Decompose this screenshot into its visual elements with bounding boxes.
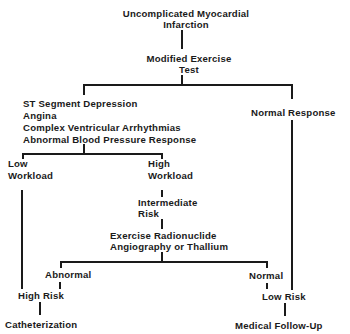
node-abnormal-findings: ST Segment Depression Angina Complex Ven… [23, 98, 196, 146]
node-uncomplicated-mi-line1: Uncomplicated Myocardial [123, 8, 249, 19]
node-high-workload-line2: Workload [148, 170, 193, 182]
node-imaging-abnormal: Abnormal [45, 269, 91, 280]
node-uncomplicated-mi: Uncomplicated Myocardial Infarction [123, 8, 249, 30]
connector-abnormal-to-high-risk [59, 282, 61, 289]
node-high-workload-line1: High [148, 158, 193, 170]
connector-low-workload-to-high-risk [21, 190, 23, 289]
node-modified-exercise-test-line1: Modified Exercise [147, 53, 232, 64]
finding-angina: Angina [23, 110, 196, 122]
node-intermediate-risk-line2: Risk [138, 208, 197, 219]
node-catheterization: Catheterization [5, 319, 77, 330]
node-imaging-normal: Normal [249, 270, 283, 281]
connector-normal-response-to-low-risk [291, 120, 293, 290]
node-uncomplicated-mi-line2: Infarction [123, 19, 249, 30]
finding-st-depression: ST Segment Depression [23, 98, 196, 110]
node-imaging-line2: Angiography or Thallium [110, 241, 228, 252]
connector-to-imaging-abnormal [60, 261, 62, 268]
connector-imaging-branch [60, 261, 268, 263]
node-medical-follow-up: Medical Follow-Up [235, 320, 323, 331]
node-modified-exercise-test-line2: Test [147, 64, 232, 75]
connector-root-to-test [181, 30, 183, 49]
node-high-risk: High Risk [18, 290, 64, 301]
node-imaging: Exercise Radionuclide Angiography or Tha… [110, 230, 228, 252]
flowchart: Uncomplicated Myocardial Infarction Modi… [0, 0, 350, 334]
node-low-workload: Low Workload [8, 158, 53, 182]
connector-normal-to-low-risk [266, 283, 268, 289]
node-imaging-line1: Exercise Radionuclide [110, 230, 228, 241]
node-intermediate-risk: Intermediate Risk [138, 197, 197, 219]
node-low-workload-line1: Low [8, 158, 53, 170]
node-normal-response: Normal Response [251, 107, 336, 118]
node-modified-exercise-test: Modified Exercise Test [147, 53, 232, 75]
connector-high-workload-to-intermediate [161, 190, 163, 197]
connector-to-normal-response [291, 84, 293, 99]
finding-abnormal-bp: Abnormal Blood Pressure Response [23, 134, 196, 146]
connector-high-risk-to-catheterization [39, 302, 41, 315]
finding-arrhythmias: Complex Ventricular Arrhythmias [23, 122, 196, 134]
connector-low-risk-to-follow-up [284, 303, 286, 316]
node-low-workload-line2: Workload [8, 170, 53, 182]
node-high-workload: High Workload [148, 158, 193, 182]
node-low-risk: Low Risk [262, 291, 306, 302]
connector-workload-branch [22, 153, 163, 155]
connector-to-abnormal-findings [83, 84, 85, 95]
connector-intermediate-to-imaging [161, 219, 163, 229]
node-intermediate-risk-line1: Intermediate [138, 197, 197, 208]
connector-test-branch [83, 84, 293, 86]
connector-to-imaging-normal [266, 261, 268, 268]
